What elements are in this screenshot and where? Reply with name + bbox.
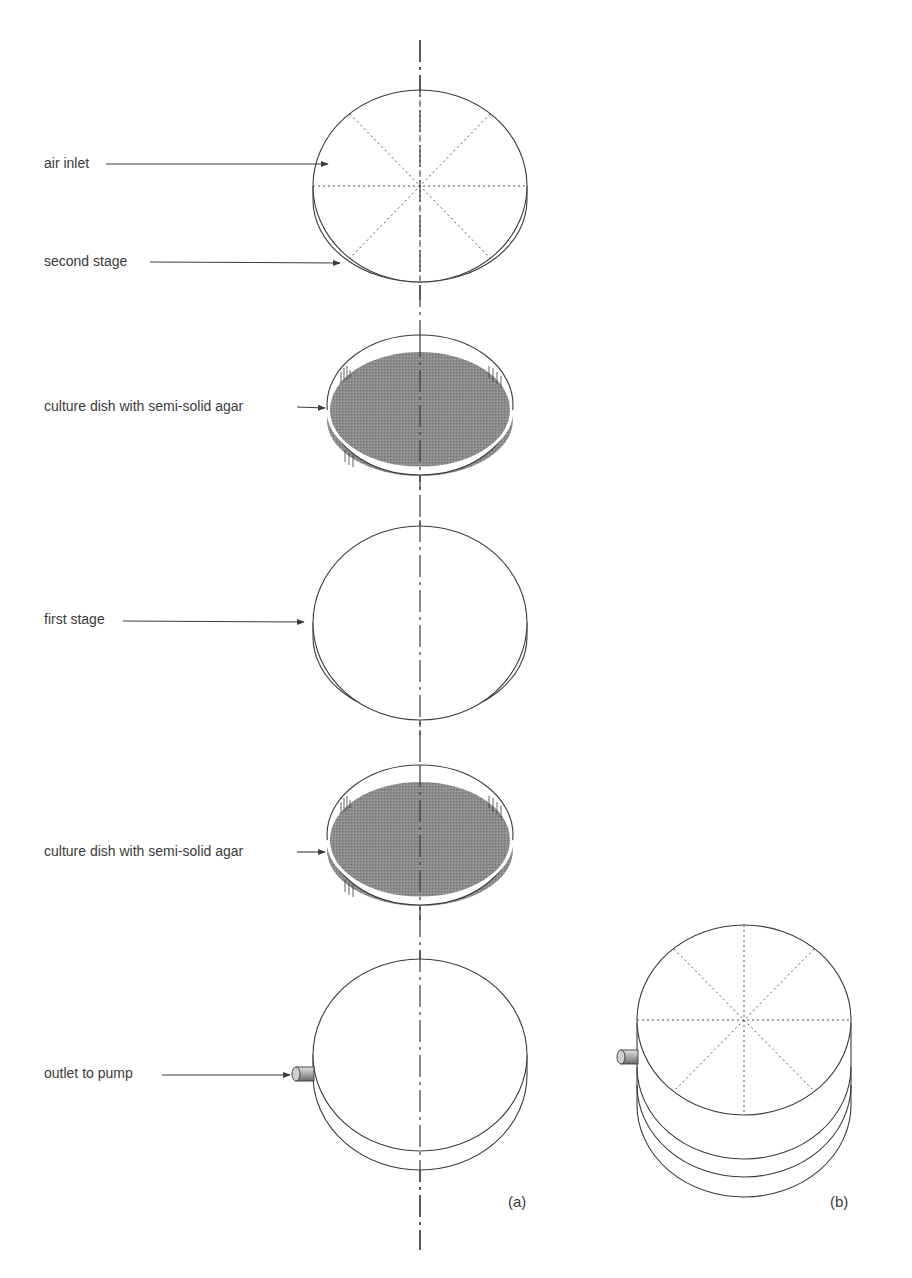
second-stage-disc (313, 40, 527, 300)
outlet-pipe-icon-b (617, 1050, 638, 1064)
culture-dish-1-arrow (297, 407, 325, 408)
label-first-stage: first stage (44, 611, 105, 627)
label-outlet-to-pump: outlet to pump (44, 1065, 133, 1081)
label-culture-dish-2: culture dish with semi-solid agar (44, 843, 244, 859)
second-stage-arrow (150, 262, 340, 263)
culture-dish-2 (327, 765, 513, 920)
label-air-inlet: air inlet (44, 155, 89, 171)
base-disc (313, 950, 527, 1250)
outlet-pipe-icon (292, 1067, 314, 1081)
first-stage-disc (313, 520, 527, 740)
assembled-sampler (637, 925, 851, 1197)
panel-label-a: (a) (508, 1193, 526, 1210)
culture-dish-1 (327, 335, 513, 490)
panel-label-b: (b) (830, 1193, 848, 1210)
label-culture-dish-1: culture dish with semi-solid agar (44, 398, 244, 414)
label-second-stage: second stage (44, 253, 127, 269)
two-stage-air-sampler-diagram: air inlet second stage culture dish with… (0, 0, 912, 1278)
first-stage-arrow (123, 621, 304, 622)
